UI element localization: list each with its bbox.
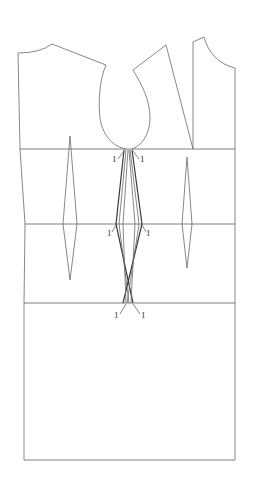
label-chest-left: 1 — [112, 154, 117, 164]
label-chest-right: 1 — [140, 154, 145, 164]
center-panel-lines — [116, 150, 142, 303]
front-neckline — [204, 37, 235, 68]
panel-line-right-mid — [129, 150, 135, 303]
back-center-line — [18, 53, 25, 460]
label-hip-left: 1 — [114, 310, 119, 320]
label-hip-right: 1 — [141, 310, 146, 320]
back-neckline — [18, 44, 52, 53]
front-center-piece — [193, 37, 235, 460]
back-shoulder-line — [52, 44, 106, 65]
front-shoulder-line — [133, 45, 166, 70]
back-bodice-piece — [18, 44, 126, 460]
ease-markings: 1 1 1 1 1 1 — [107, 151, 151, 320]
front-side-line — [166, 45, 193, 149]
back-waist-dart — [63, 136, 77, 280]
front-side-piece — [132, 45, 193, 149]
front-waist-dart — [182, 157, 192, 268]
label-waist-right: 1 — [146, 228, 151, 238]
back-armhole — [99, 65, 126, 149]
pattern-diagram: 1 1 1 1 1 1 — [0, 0, 256, 488]
front-neck-edge — [193, 37, 204, 149]
front-armhole — [132, 70, 150, 149]
label-waist-left: 1 — [107, 228, 112, 238]
